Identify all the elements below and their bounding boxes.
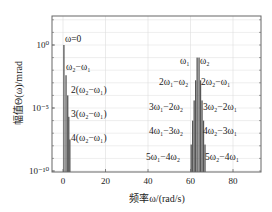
x-tick-label: 60 — [186, 176, 196, 186]
spectrum-bar — [196, 58, 197, 172]
peak-label: 2ω₂−ω₁ — [201, 77, 230, 87]
peak-label: 4(ω₂−ω₁) — [71, 133, 107, 144]
peak-label: ω₁ — [180, 56, 190, 66]
peak-label: ω₂ — [200, 56, 210, 66]
spectrum-bar — [192, 121, 193, 172]
spectrum-bar — [191, 145, 192, 172]
spectrum-bar — [195, 80, 196, 172]
peak-label: ω₂−ω₁ — [66, 62, 91, 72]
peak-label: 3ω₂−2ω₁ — [203, 102, 237, 112]
y-tick-label: 10⁻⁵ — [32, 103, 49, 113]
spectrum-bar — [63, 45, 64, 172]
y-tick-label: 10⁰ — [36, 40, 49, 50]
peak-label: 3(ω₂−ω₁) — [71, 109, 107, 120]
y-axis-label: 幅值Θ(ω)/mrad — [12, 61, 25, 125]
x-tick-label: 40 — [144, 176, 154, 186]
peak-label: 2ω₁−ω₂ — [159, 77, 188, 87]
x-tick-label: 0 — [61, 176, 66, 186]
spectrum-bar — [194, 100, 195, 172]
spectrum-bar — [65, 75, 66, 172]
peak-label: 4ω₂−3ω₁ — [203, 126, 237, 136]
x-axis-label: 频率ω/(rad/s) — [129, 192, 184, 205]
x-tick-label: 20 — [101, 176, 111, 186]
peak-label: 3ω₁−2ω₂ — [149, 102, 183, 112]
x-tick-label: 80 — [229, 176, 239, 186]
peak-label: 5ω₂−4ω₁ — [205, 152, 239, 162]
peak-label: 2(ω₂−ω₁) — [71, 85, 107, 96]
spectrum-bar — [198, 58, 199, 172]
peak-annotations: ω=0ω₂−ω₁2(ω₂−ω₁)3(ω₂−ω₁)4(ω₂−ω₁)ω₁ω₂2ω₁−… — [65, 34, 239, 162]
peak-label: 4ω₁−3ω₂ — [149, 126, 183, 136]
peak-label: 5ω₁−4ω₂ — [146, 152, 180, 162]
peak-label: ω=0 — [65, 34, 82, 44]
spectrum-bar — [200, 80, 201, 172]
y-tick-label: 10⁻¹⁰ — [29, 166, 49, 176]
spectrum-chart: 02040608010⁰10⁻⁵10⁻¹⁰ ω=0ω₂−ω₁2(ω₂−ω₁)3(… — [0, 0, 272, 212]
spectrum-bar — [69, 140, 70, 173]
